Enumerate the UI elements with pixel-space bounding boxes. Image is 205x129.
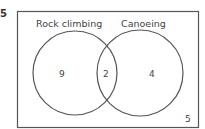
count-rock-climbing-only: 9	[59, 69, 65, 79]
set-circle-canoeing	[97, 30, 183, 116]
count-outside: 5	[185, 114, 191, 124]
count-intersection: 2	[103, 69, 109, 79]
venn-diagram: Rock climbing Canoeing 9 2 4 5	[0, 0, 205, 129]
set-label-canoeing: Canoeing	[121, 18, 166, 29]
count-canoeing-only: 4	[149, 69, 155, 79]
set-label-rock-climbing: Rock climbing	[36, 18, 102, 29]
